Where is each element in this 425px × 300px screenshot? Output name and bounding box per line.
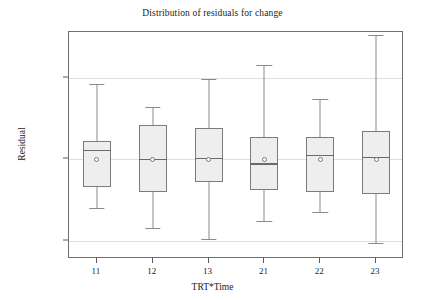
whisker-upper	[152, 107, 153, 125]
whisker-cap-lower	[257, 221, 272, 222]
whisker-lower	[376, 194, 377, 242]
y-tick-mark	[63, 76, 68, 77]
boxplot-group[interactable]	[125, 32, 181, 257]
chart-title: Distribution of residuals for change	[0, 8, 425, 18]
plot-inner	[69, 32, 402, 257]
plot-area	[68, 31, 403, 258]
whisker-cap-lower	[368, 243, 383, 244]
x-tick-mark	[208, 258, 209, 263]
x-tick-label: 11	[92, 266, 101, 276]
boxplot-group[interactable]	[69, 32, 125, 257]
x-tick-mark	[375, 258, 376, 263]
whisker-upper	[264, 65, 265, 138]
y-axis-title: Residual	[17, 116, 27, 172]
x-tick-label: 12	[147, 266, 156, 276]
box-iqr[interactable]	[83, 141, 111, 188]
whisker-cap-upper	[368, 35, 383, 36]
whisker-cap-lower	[145, 228, 160, 229]
x-tick-mark	[96, 258, 97, 263]
whisker-cap-upper	[89, 84, 104, 85]
x-tick-label: 23	[371, 266, 380, 276]
mean-marker	[206, 157, 211, 162]
mean-marker	[374, 157, 379, 162]
x-tick-mark	[319, 258, 320, 263]
whisker-lower	[320, 192, 321, 212]
whisker-upper	[376, 35, 377, 131]
boxplot-group[interactable]	[348, 32, 404, 257]
whisker-lower	[264, 190, 265, 221]
whisker-cap-upper	[145, 107, 160, 108]
y-tick-mark	[63, 158, 68, 159]
chart-root: Distribution of residuals for change Res…	[0, 0, 425, 300]
boxplot-group[interactable]	[181, 32, 237, 257]
whisker-lower	[152, 192, 153, 228]
x-tick-label: 21	[259, 266, 268, 276]
median-line	[250, 163, 278, 164]
x-tick-mark	[152, 258, 153, 263]
whisker-lower	[96, 187, 97, 207]
whisker-cap-lower	[89, 208, 104, 209]
whisker-upper	[96, 84, 97, 140]
median-line	[83, 150, 111, 151]
y-tick-mark	[63, 240, 68, 241]
box-iqr[interactable]	[306, 137, 334, 192]
whisker-cap-upper	[257, 65, 272, 66]
x-tick-label: 13	[203, 266, 212, 276]
whisker-cap-upper	[201, 79, 216, 80]
box-iqr[interactable]	[362, 131, 390, 195]
whisker-cap-lower	[201, 239, 216, 240]
whisker-upper	[320, 99, 321, 137]
whisker-cap-lower	[313, 212, 328, 213]
whisker-upper	[208, 79, 209, 128]
whisker-cap-upper	[313, 99, 328, 100]
x-axis-title: TRT*Time	[0, 282, 425, 292]
x-tick-mark	[263, 258, 264, 263]
box-iqr[interactable]	[195, 128, 223, 183]
mean-marker	[262, 157, 267, 162]
mean-marker	[318, 157, 323, 162]
x-tick-label: 22	[315, 266, 324, 276]
boxplot-group[interactable]	[292, 32, 348, 257]
boxplot-group[interactable]	[237, 32, 293, 257]
whisker-lower	[208, 182, 209, 239]
